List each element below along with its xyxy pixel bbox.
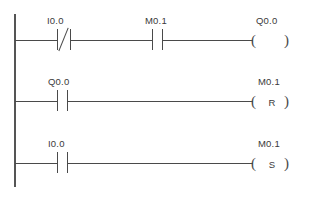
rung-1-contact-2-bar-left [152, 29, 153, 50]
rung-3-coil-label: M0.1 [258, 138, 280, 149]
rung-2-contact-1-label: Q0.0 [48, 76, 69, 87]
rung-3-contact-1-bar-left [57, 152, 58, 173]
rung-2-coil-label: M0.1 [258, 76, 280, 87]
rung-2-contact-1-bar-left [57, 90, 58, 111]
rung-1-wire-segment-1 [15, 40, 57, 41]
rung-3-coil-letter: S [259, 159, 285, 170]
rung-3-wire-segment-2 [68, 163, 253, 164]
rung-1-contact-1-label: I0.0 [47, 15, 64, 26]
rung-2-wire-segment-1 [15, 101, 57, 102]
rung-3-wire-segment-1 [15, 163, 57, 164]
ladder-diagram: I0.0 M0.1 ( ) Q0.0 Q0.0 ( R ) M0.1 I0.0 … [0, 0, 314, 199]
rung-1-contact-1-slash-icon [58, 28, 69, 52]
rung-3-coil-paren-right: ) [284, 156, 289, 171]
rung-3-coil-paren-left: ( [251, 156, 256, 171]
rung-1-coil-paren-left: ( [251, 33, 256, 48]
rung-1-wire-segment-3 [163, 40, 253, 41]
rung-1-contact-1-bar-left [57, 29, 58, 50]
rung-2-coil-paren-left: ( [251, 94, 256, 109]
rung-2-coil-letter: R [259, 97, 285, 108]
rung-1-contact-2-label: M0.1 [145, 15, 167, 26]
rung-3-contact-1-label: I0.0 [48, 138, 65, 149]
rung-1-wire-segment-2 [71, 40, 153, 41]
rung-2-coil-paren-right: ) [284, 94, 289, 109]
rung-1-coil-label: Q0.0 [256, 15, 277, 26]
rung-1-coil-paren-right: ) [284, 33, 289, 48]
rung-2-wire-segment-2 [68, 101, 253, 102]
